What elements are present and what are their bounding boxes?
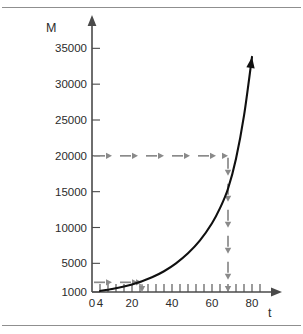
y-tick-label: 10000 (55, 222, 87, 234)
y-tick-label: 30000 (55, 78, 87, 90)
x-tick-label: 80 (246, 297, 259, 309)
y-tick-label: 25000 (55, 114, 87, 126)
graph-figure: 10005000100001500020000250003000035000 0… (0, 0, 303, 334)
x-tick-label: 0 (89, 297, 95, 309)
y-tick-label: 5000 (61, 257, 87, 269)
x-tick-label: 20 (126, 297, 139, 309)
x-tick-label: 4 (97, 297, 104, 309)
x-tick-label: 40 (166, 297, 179, 309)
x-axis-title: t (268, 306, 272, 320)
x-tick-label: 60 (206, 297, 219, 309)
x-axis-minor-ticks (100, 284, 260, 292)
y-tick-label: 1000 (61, 286, 87, 298)
y-tick-label: 15000 (55, 186, 87, 198)
y-axis-title: M (46, 21, 56, 35)
y-tick-label: 35000 (55, 42, 87, 54)
figure-background (0, 0, 303, 334)
y-tick-label: 20000 (55, 150, 87, 162)
